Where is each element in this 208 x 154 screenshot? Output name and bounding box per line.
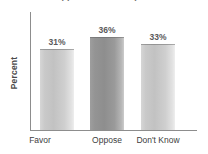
category-label-favor: Favor (8, 135, 72, 145)
bar-dont-know (141, 44, 175, 130)
category-label-dont-know: Don't Know (126, 135, 190, 145)
x-axis-line (30, 130, 197, 131)
bar-value-oppose: 36% (85, 25, 129, 35)
bar-group-oppose: 36% (90, 12, 124, 130)
bar-group-dont-know: 33% (141, 12, 175, 130)
bar-chart: Support for the Proposal Percent 31% 36%… (0, 0, 208, 154)
bar-oppose (90, 37, 124, 130)
plot-area: 31% 36% 33% (31, 12, 197, 130)
bar-favor (40, 49, 74, 130)
bar-group-favor: 31% (40, 12, 74, 130)
chart-title: Support for the Proposal (0, 0, 208, 2)
y-axis-title: Percent (9, 43, 19, 103)
bar-value-dont-know: 33% (136, 32, 180, 42)
bar-value-favor: 31% (35, 37, 79, 47)
